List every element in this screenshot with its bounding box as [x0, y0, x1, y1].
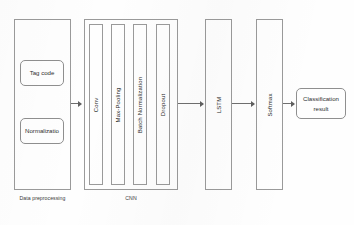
softmax-label: Softmax — [267, 93, 273, 116]
cnn-group-label: CNN — [84, 196, 178, 201]
arrow-cnn-to-lstm — [178, 103, 203, 104]
normalization-box[interactable]: Normalizatio — [20, 118, 64, 144]
cnn-layer-batch-normalization-label: Batch Normalization — [137, 76, 143, 133]
cnn-layer-conv-label: Conv — [93, 97, 99, 112]
classification-result-line2: result — [314, 104, 329, 113]
cnn-layer-conv[interactable]: Conv — [89, 24, 103, 185]
tag-code-box[interactable]: Tag code — [20, 60, 64, 86]
cnn-layer-dropout-label: Dropout — [160, 93, 166, 115]
classification-result-box[interactable]: Classification result — [296, 88, 346, 119]
architecture-diagram: Tag code Normalizatio Data preprocessing… — [0, 0, 354, 225]
arrow-lstm-to-softmax — [232, 103, 254, 104]
cnn-layer-max-pooling[interactable]: Max-Pooling — [111, 24, 125, 185]
classification-result-line1: Classification — [303, 94, 339, 103]
data-preprocessing-group — [14, 19, 71, 190]
tag-code-label: Tag code — [30, 68, 55, 77]
data-preprocessing-group-label: Data preprocessing — [14, 196, 71, 201]
lstm-label: LSTM — [216, 96, 222, 113]
cnn-layer-max-pooling-label: Max-Pooling — [115, 87, 121, 122]
lstm-block[interactable]: LSTM — [205, 19, 232, 190]
arrow-softmax-to-result — [283, 103, 294, 104]
arrow-preprocessing-to-cnn — [71, 103, 81, 104]
softmax-block[interactable]: Softmax — [256, 19, 283, 190]
normalization-label: Normalizatio — [25, 126, 59, 135]
cnn-layer-batch-normalization[interactable]: Batch Normalization — [133, 24, 147, 185]
cnn-layer-dropout[interactable]: Dropout — [156, 24, 170, 185]
